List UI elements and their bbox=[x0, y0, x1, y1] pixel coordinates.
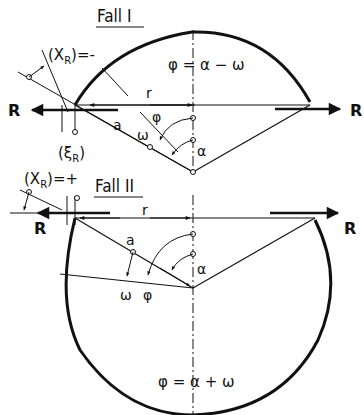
case1-xr-label: (XR)=- bbox=[48, 46, 95, 66]
case2-radius-right bbox=[193, 218, 315, 288]
case1-phi-label: φ bbox=[152, 109, 161, 125]
case1-force-right-label: R bbox=[350, 101, 362, 120]
case2-title: Fall II bbox=[95, 176, 134, 196]
case1-force-left-label: R bbox=[8, 101, 20, 120]
case1-alpha-arc bbox=[172, 140, 193, 155]
case1-a-label: a bbox=[113, 117, 122, 133]
case2-force-right-label: R bbox=[344, 219, 356, 238]
case2-phi-label: φ bbox=[143, 287, 152, 303]
case1-a-line bbox=[18, 72, 193, 172]
case1-title: Fall I bbox=[97, 6, 131, 26]
case1-alpha-label: α bbox=[197, 143, 206, 159]
diagram-canvas: Fall I φ = α − ω (XR)=- (ξR) r a φ ω α R… bbox=[0, 0, 364, 415]
case1-figure: Fall I φ = α − ω (XR)=- (ξR) r a φ ω α R… bbox=[8, 6, 362, 175]
case2-xr-label: (XR)=+ bbox=[24, 170, 78, 190]
case1-xi-label: (ξR) bbox=[58, 144, 85, 164]
case2-omega-label: ω bbox=[120, 287, 132, 303]
case2-r-label: r bbox=[142, 202, 148, 218]
case2-figure: Fall II φ = α + ω (XR)=+ r a φ ω α R R bbox=[10, 170, 356, 415]
case2-alpha-label: α bbox=[197, 261, 206, 277]
case1-radius-right bbox=[193, 105, 310, 172]
case2-force-left-label: R bbox=[34, 219, 46, 238]
case2-formula: φ = α + ω bbox=[158, 373, 235, 391]
case1-phi-arc bbox=[160, 118, 193, 140]
case1-formula: φ = α − ω bbox=[168, 56, 245, 74]
case1-r-label: r bbox=[146, 85, 152, 101]
case1-normal-tick bbox=[102, 68, 128, 96]
case1-omega-label: ω bbox=[137, 127, 149, 143]
case2-a-label: a bbox=[126, 232, 135, 248]
